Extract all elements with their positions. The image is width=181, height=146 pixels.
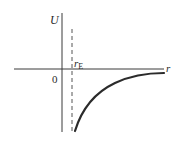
u-axis-label: U [50, 14, 59, 26]
re-label: rE [74, 54, 83, 70]
diagram-canvas [0, 0, 181, 146]
potential-curve [75, 73, 164, 131]
r-axis-label: r [166, 63, 170, 74]
potential-energy-diagram: U 0 rE r [0, 0, 181, 146]
re-label-subscript: E [78, 62, 83, 71]
origin-label: 0 [52, 74, 58, 85]
